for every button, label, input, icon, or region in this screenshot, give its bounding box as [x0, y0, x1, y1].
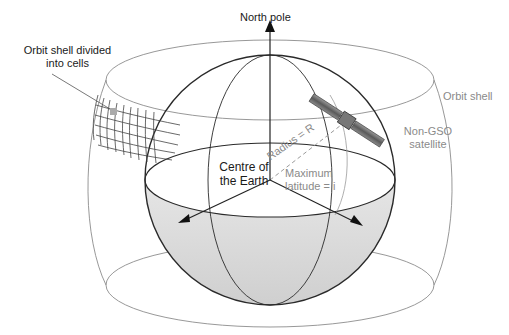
- satellite-label-line2: satellite: [398, 138, 458, 151]
- centre-label-line2: the Earth: [218, 174, 270, 188]
- max-latitude-label: Maximum latitude = i: [285, 167, 335, 193]
- orbit-cells-label-line2: into cells: [20, 57, 115, 70]
- orbit-shell-left-side: [88, 80, 106, 285]
- centre-label-line1: Centre of: [218, 160, 270, 174]
- orbit-shell-cells: [93, 95, 180, 163]
- satellite-label: Non-GSO satellite: [398, 125, 458, 151]
- centre-label: Centre of the Earth: [218, 160, 270, 188]
- max-latitude-label-line1: Maximum: [285, 167, 335, 180]
- satellite-icon: [308, 92, 386, 149]
- orbit-cells-label-line1: Orbit shell divided: [20, 44, 115, 57]
- orbit-cells-label: Orbit shell divided into cells: [20, 44, 115, 70]
- orbit-shell-label: Orbit shell: [443, 90, 493, 103]
- max-latitude-label-line2: latitude = i: [285, 180, 335, 193]
- southern-hemisphere: [145, 180, 395, 305]
- orbit-shell-right-side: [434, 80, 452, 285]
- highlighted-cell: [110, 108, 117, 115]
- cells-leader-line: [52, 74, 110, 109]
- satellite-label-line1: Non-GSO: [398, 125, 458, 138]
- north-pole-label: North pole: [240, 11, 291, 24]
